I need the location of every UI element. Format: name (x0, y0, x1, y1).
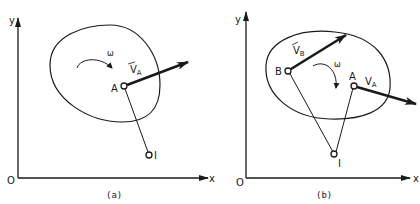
line-A-I (336, 88, 353, 152)
velocity-label-vA: VA (365, 76, 377, 89)
y-axis-label: y (235, 14, 241, 25)
point-A-marker (351, 83, 357, 89)
point-A-label: A (349, 71, 356, 82)
y-axis-label: y (9, 15, 15, 26)
velocity-vector-A (357, 87, 416, 104)
panel-a: y O ω VA A I x (a) (7, 15, 215, 200)
line-A-I (124, 86, 148, 152)
point-I-label: I (154, 150, 157, 161)
panel-b: y O ω VB VA B A I x (b) (235, 12, 419, 200)
origin-label: O (7, 175, 15, 186)
omega-label: ω (334, 60, 341, 69)
point-B-label: B (275, 66, 282, 77)
point-I-marker (146, 152, 152, 158)
omega-label: ω (107, 49, 114, 58)
panel-caption-a: (a) (106, 190, 122, 200)
velocity-label-vB: VB (293, 45, 305, 58)
x-axis-label: x (413, 173, 419, 184)
panel-caption-b: (b) (316, 190, 332, 200)
point-I-marker (331, 151, 337, 157)
line-B-I (289, 72, 333, 152)
point-A-label: A (111, 83, 118, 94)
rigid-body-outline (50, 25, 160, 122)
velocity-label-vA: VA (130, 64, 142, 77)
point-I-label: I (338, 158, 341, 169)
point-A-marker (121, 83, 127, 89)
angular-velocity-arc-icon (313, 64, 336, 88)
origin-label: O (236, 177, 244, 188)
x-axis-label: x (209, 173, 215, 184)
point-B-marker (285, 68, 291, 74)
angular-velocity-arc-icon (77, 60, 112, 68)
kinematics-figure: y O ω VA A I x (a) y O ω (0, 0, 420, 204)
